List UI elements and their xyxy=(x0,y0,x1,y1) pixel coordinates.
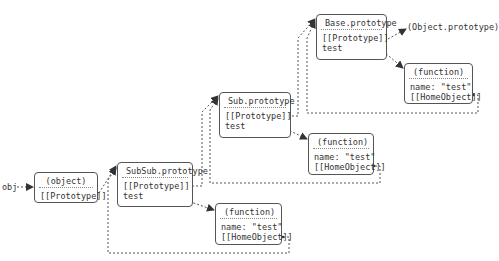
base-prototype-node: Base.prototype [[Prototype]] test xyxy=(316,14,387,60)
object-node: (object) [[Prototype]] xyxy=(34,172,98,203)
node-title: Sub.prototype xyxy=(224,93,286,108)
node-field: [[Prototype]] xyxy=(225,111,285,121)
node-field: test xyxy=(322,43,381,53)
base-function-node: (function) name: "test" [[HomeObject]] xyxy=(404,63,473,104)
node-title: (function) xyxy=(220,204,277,219)
node-title: (object) xyxy=(39,173,93,188)
node-title: SubSub.prototype xyxy=(122,163,188,178)
node-field: test xyxy=(225,121,285,131)
obj-variable-label: obj xyxy=(2,182,17,192)
node-title: (function) xyxy=(313,134,369,149)
node-field: [[Prototype]] xyxy=(123,181,187,191)
sub-function-node: (function) name: "test" [[HomeObject]] xyxy=(308,133,374,175)
object-prototype-label: (Object.prototype) xyxy=(407,22,499,32)
subsub-prototype-node: SubSub.prototype [[Prototype]] test xyxy=(117,162,193,207)
node-title: (function) xyxy=(409,64,468,79)
node-field: [[HomeObject]] xyxy=(221,232,276,242)
node-field: test xyxy=(123,191,187,201)
node-field: [[Prototype]] xyxy=(40,191,92,201)
subsub-function-node: (function) name: "test" [[HomeObject]] xyxy=(215,203,282,245)
node-field: name: "test" xyxy=(410,82,467,92)
node-field: name: "test" xyxy=(314,152,368,162)
node-field: [[HomeObject]] xyxy=(410,92,467,102)
node-field: [[HomeObject]] xyxy=(314,162,368,172)
sub-prototype-node: Sub.prototype [[Prototype]] test xyxy=(219,92,291,138)
node-title: Base.prototype xyxy=(321,15,382,30)
node-field: name: "test" xyxy=(221,222,276,232)
node-field: [[Prototype]] xyxy=(322,33,381,43)
